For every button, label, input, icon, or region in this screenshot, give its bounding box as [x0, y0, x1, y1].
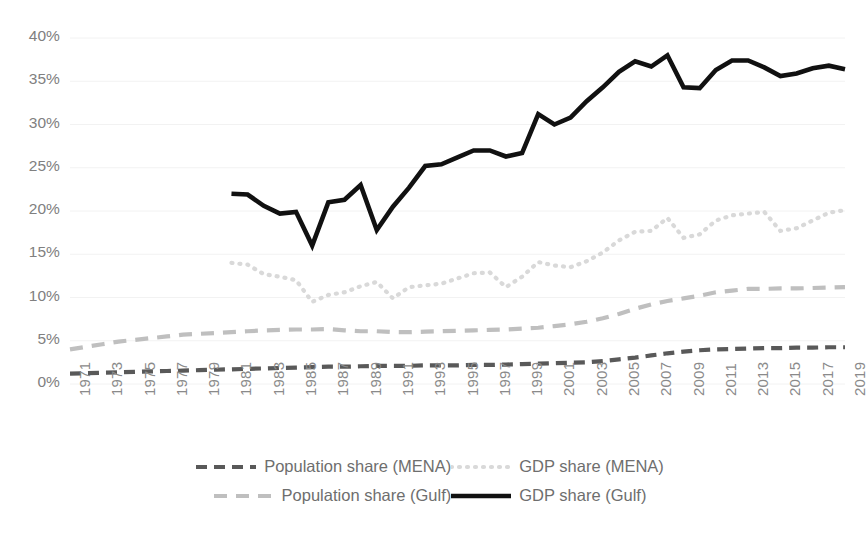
legend-item-pop-gulf[interactable]: Population share (Gulf)	[214, 486, 452, 505]
x-tick-label: 1987	[334, 362, 351, 396]
x-tick-label: 1971	[76, 362, 93, 396]
x-tick-label: 1977	[173, 362, 190, 396]
series-line-pop_gulf	[70, 287, 845, 349]
x-tick-label: 1979	[205, 362, 222, 396]
x-tick-label: 1989	[367, 362, 384, 396]
legend-label-gdp-gulf: GDP share (Gulf)	[519, 486, 646, 505]
x-tick-label: 1973	[108, 362, 125, 396]
y-tick-label: 0%	[8, 373, 60, 391]
x-tick-label: 2007	[657, 362, 674, 396]
legend-row-2: Population share (Gulf) GDP share (Gulf)	[214, 486, 647, 505]
y-tick-label: 15%	[8, 243, 60, 261]
x-tick-label: 1991	[399, 362, 416, 396]
legend-swatch-gdp-gulf	[451, 489, 511, 503]
x-tick-label: 2001	[560, 362, 577, 396]
legend-swatch-pop-gulf	[214, 489, 274, 503]
y-tick-label: 10%	[8, 287, 60, 305]
x-tick-label: 1997	[496, 362, 513, 396]
x-tick-label: 1999	[528, 362, 545, 396]
x-tick-label: 1975	[141, 362, 158, 396]
x-tick-label: 2009	[690, 362, 707, 396]
y-tick-label: 5%	[8, 330, 60, 348]
x-tick-label: 2011	[722, 363, 739, 396]
x-tick-label: 2019	[851, 362, 868, 396]
x-tick-label: 2017	[819, 362, 836, 396]
y-tick-label: 35%	[8, 70, 60, 88]
data-series-group	[70, 55, 845, 373]
legend-item-pop-mena[interactable]: Population share (MENA)	[196, 457, 451, 476]
legend-item-gdp-gulf[interactable]: GDP share (Gulf)	[451, 486, 646, 505]
y-tick-label: 20%	[8, 200, 60, 218]
y-tick-label: 25%	[8, 157, 60, 175]
legend-label-pop-gulf: Population share (Gulf)	[282, 486, 452, 505]
legend-swatch-gdp-mena	[451, 460, 511, 474]
x-tick-label: 2005	[625, 362, 642, 396]
x-tick-label: 1981	[237, 362, 254, 396]
series-line-gdp_gulf	[231, 55, 845, 245]
y-tick-label: 40%	[8, 27, 60, 45]
x-tick-label: 1983	[270, 362, 287, 396]
chart-legend: Population share (MENA) GDP share (MENA)…	[0, 457, 860, 505]
y-gridlines	[70, 38, 845, 384]
x-tick-label: 2003	[593, 362, 610, 396]
legend-row-1: Population share (MENA) GDP share (MENA)	[196, 457, 664, 476]
legend-label-pop-mena: Population share (MENA)	[264, 457, 451, 476]
x-tick-label: 2015	[786, 362, 803, 396]
x-tick-label: 1993	[431, 362, 448, 396]
x-tick-label: 1985	[302, 362, 319, 396]
legend-item-gdp-mena[interactable]: GDP share (MENA)	[451, 457, 664, 476]
x-tick-label: 1995	[464, 362, 481, 396]
y-tick-label: 30%	[8, 114, 60, 132]
legend-label-gdp-mena: GDP share (MENA)	[519, 457, 664, 476]
legend-swatch-pop-mena	[196, 460, 256, 474]
x-tick-label: 2013	[754, 362, 771, 396]
